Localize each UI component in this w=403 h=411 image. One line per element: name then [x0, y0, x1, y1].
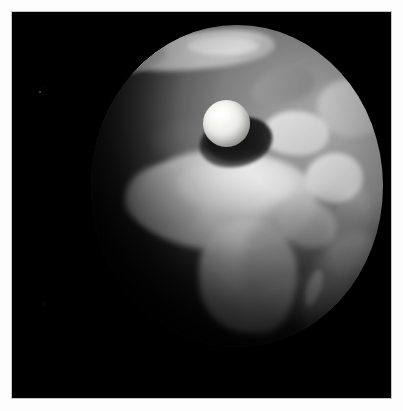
- cloud-band-south-atlantic: [238, 268, 354, 330]
- earth-sphere-surface: [91, 25, 383, 347]
- cloud-band-arabian-sea: [319, 182, 378, 284]
- feature-western-asia: [317, 79, 383, 137]
- sphere-specular-highlight: [213, 107, 233, 123]
- feature-indian-ocean: [241, 195, 383, 345]
- day-night-terminator: [91, 25, 383, 347]
- earth-globe: [91, 25, 383, 347]
- sunlit-limb-highlight: [91, 25, 383, 347]
- feature-southern-africa: [199, 221, 297, 333]
- star-speck-icon: [44, 87, 45, 88]
- cloud-band-indian-ocean: [287, 220, 383, 347]
- star-speck-icon: [43, 303, 45, 305]
- star-speck-icon: [42, 94, 43, 95]
- feature-sahara: [175, 157, 295, 213]
- feature-madagascar: [301, 268, 326, 308]
- feature-horn-of-africa: [272, 194, 341, 253]
- feature-europe: [263, 111, 329, 155]
- feature-greenland: [107, 41, 169, 80]
- feature-west-africa: [125, 165, 203, 231]
- feature-scandinavia: [248, 63, 318, 110]
- feature-north-africa: [135, 151, 317, 251]
- limb-darkening: [91, 25, 383, 347]
- space-background: [13, 13, 390, 397]
- image-canvas: Grayscale render of the Earth's Africa-f…: [0, 0, 403, 411]
- floating-white-sphere: [203, 100, 250, 147]
- feature-arctic-ice-cap: [123, 25, 276, 77]
- star-speck-icon: [39, 91, 41, 93]
- feature-arctic-islands: [187, 37, 259, 55]
- feature-arabian-peninsula: [302, 149, 366, 207]
